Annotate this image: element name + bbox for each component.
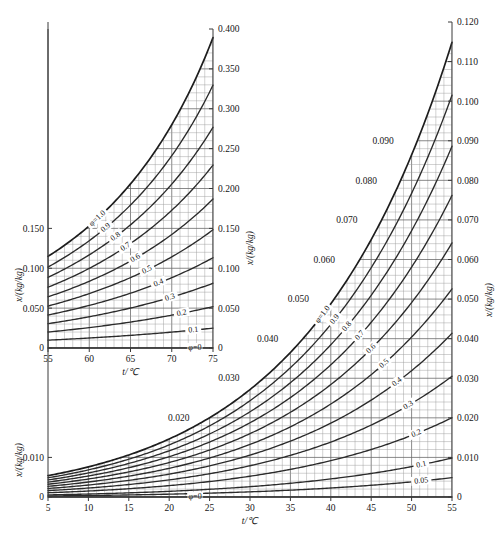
gridvalue-label: 0.020 (168, 413, 190, 423)
y-tick-label-right: 0.050 (457, 294, 479, 304)
x-tick-label: 50 (407, 503, 417, 513)
y-tick-label-right: 0.300 (218, 104, 240, 114)
x-axis-title: t/℃ (242, 516, 259, 526)
gridvalue-label: 0.080 (356, 176, 378, 186)
y-tick-label-right: 0.020 (457, 413, 479, 423)
y-tick-label-right: 0.100 (218, 264, 240, 274)
gridvalue-label: 0.030 (218, 373, 240, 383)
x-tick-label: 45 (366, 503, 376, 513)
y-tick-label-right: 0.100 (457, 97, 479, 107)
y-tick-label-right: 0.050 (218, 304, 240, 314)
y-tick-label-right: 0.120 (457, 17, 479, 27)
curve-label-group: 0.1 (413, 458, 430, 470)
curve-label-group: 0.4 (149, 275, 167, 289)
y-tick-label-right: 0.110 (457, 57, 478, 67)
y-tick-label-right: 0.080 (457, 176, 479, 186)
gridvalue-label: 0.050 (288, 294, 310, 304)
y-tick-label-right: 0.040 (457, 334, 479, 344)
gridvalue-label: 0.090 (372, 136, 394, 146)
phi-curve-label: 0.05 (414, 475, 429, 485)
y-tick-label-right: 0 (218, 343, 223, 353)
x-tick-label: 40 (326, 503, 336, 513)
grid-inset (48, 29, 213, 348)
x-tick-label: 60 (85, 354, 95, 364)
x-tick-label: 55 (447, 503, 457, 513)
y-tick-label-left: 0.010 (23, 453, 45, 463)
y-axis-title-right: x/(kg/kg) (245, 231, 256, 266)
x-tick-label: 20 (164, 503, 174, 513)
curve-label-group: 0.2 (407, 426, 425, 440)
y-axis-title-left: x/(kg/kg) (14, 268, 25, 303)
y-tick-label-right: 0.400 (218, 24, 240, 34)
x-tick-label: 5 (46, 503, 51, 513)
y-tick-label-right: 0.250 (218, 144, 240, 154)
curve-label-group: 0.3 (399, 397, 417, 413)
y-tick-label-left: 0.150 (23, 224, 45, 234)
x-tick-label: 25 (205, 503, 215, 513)
phi-curve-label: 0.1 (188, 325, 199, 335)
y-tick-label-right: 0.070 (457, 215, 479, 225)
phi-curve-label: 0.1 (415, 459, 427, 470)
y-axis-title-left: x/(kg/kg) (14, 443, 25, 478)
y-tick-label-right: 0.200 (218, 184, 240, 194)
y-tick-label-right: 0.090 (457, 136, 479, 146)
curve-label-group: 0.2 (173, 307, 190, 319)
y-tick-label-left: 0.100 (23, 264, 45, 274)
y-tick-label-right: 0 (457, 492, 462, 502)
x-axis-title: t/℃ (122, 367, 139, 377)
y-tick-label-right: 0.010 (457, 453, 479, 463)
psychrometric-chart-figure: φ=1.00.90.80.70.60.50.40.30.20.1φ=055606… (0, 0, 503, 543)
x-tick-label: 65 (126, 354, 136, 364)
curve-label-group: 0.1 (185, 324, 202, 334)
y-tick-label-left: 0.050 (23, 304, 45, 314)
y-tick-label-right: 0.350 (218, 64, 240, 74)
y-tick-label-right: 0.150 (218, 224, 240, 234)
y-tick-label-left: 0 (39, 492, 44, 502)
x-ticks-main: 510152025303540455055 (46, 497, 457, 513)
curve-label-group: 0.3 (161, 290, 179, 303)
y-tick-label-right: 0.060 (457, 255, 479, 265)
y-tick-label-left: 0 (39, 343, 44, 353)
x-tick-label: 10 (84, 503, 94, 513)
chart-canvas: φ=1.00.90.80.70.60.50.40.30.20.1φ=055606… (0, 0, 503, 543)
x-tick-label: 35 (286, 503, 296, 513)
plot-main: φ=1.00.90.80.70.60.50.40.30.20.10.05φ=00… (14, 17, 495, 526)
y-axis-title-right: x/(kg/kg) (484, 283, 495, 318)
gridvalue-label: 0.070 (336, 215, 358, 225)
x-tick-label: 70 (167, 354, 177, 364)
x-tick-label: 75 (208, 354, 218, 364)
phi-curve-label: 0.2 (176, 307, 188, 318)
curve-label-group: 0.05 (411, 475, 432, 486)
y-tick-label-right: 0.030 (457, 374, 479, 384)
x-tick-label: 15 (124, 503, 134, 513)
x-tick-label: 30 (245, 503, 255, 513)
gridvalue-label: 0.060 (314, 255, 336, 265)
gridvalue-label: 0.040 (257, 334, 279, 344)
plot-inset: φ=1.00.90.80.70.60.50.40.30.20.1φ=055606… (14, 24, 256, 377)
